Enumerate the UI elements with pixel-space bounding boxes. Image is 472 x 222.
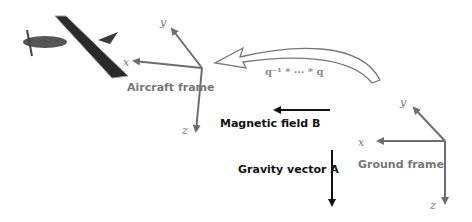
aircraft-x-label: x [123,56,129,69]
aircraft-frame-label: Aircraft frame [127,81,215,94]
airplane-image [23,16,128,78]
ground-y-label: y [400,96,406,109]
ground-z-label: z [430,199,436,212]
ground-frame-axes [378,108,445,203]
diagram: x y z Aircraft frame q⁻¹ * ··· * q Magne… [0,0,472,222]
gravity-vector-label: Gravity vector A [238,163,339,176]
rotation-label: q⁻¹ * ··· * q [265,66,323,77]
aircraft-frame-axes [134,29,202,131]
aircraft-z-label: z [182,124,188,137]
aircraft-y-label: y [160,16,166,29]
ground-x-label: x [358,136,364,149]
diagram-graphics [0,0,472,222]
magnetic-field-label: Magnetic field B [220,117,320,130]
ground-frame-label: Ground frame [358,158,444,171]
